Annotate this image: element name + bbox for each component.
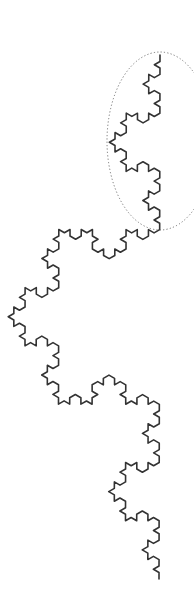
koch-curve-figure	[0, 0, 194, 615]
background	[0, 0, 194, 615]
